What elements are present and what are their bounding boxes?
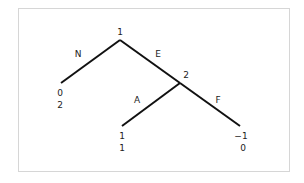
payoff-A-player2: 1 — [119, 143, 125, 153]
payoff-F-player2: 0 — [240, 143, 246, 153]
payoff-N-player2: 2 — [57, 100, 63, 110]
action-label-A: A — [134, 95, 140, 105]
action-label-F: F — [215, 95, 220, 105]
edge-F — [180, 83, 240, 126]
payoff-A-player1: 1 — [119, 131, 125, 141]
action-label-N: N — [75, 49, 82, 59]
action-label-E: E — [155, 49, 161, 59]
payoff-F-player1: −1 — [234, 131, 247, 141]
node-root-player-label: 1 — [117, 27, 123, 37]
payoff-N-player1: 0 — [57, 88, 63, 98]
edge-E — [120, 40, 180, 83]
edge-A — [122, 83, 180, 126]
node-2-player-label: 2 — [183, 70, 189, 80]
edge-N — [61, 40, 120, 83]
game-tree — [0, 0, 304, 183]
